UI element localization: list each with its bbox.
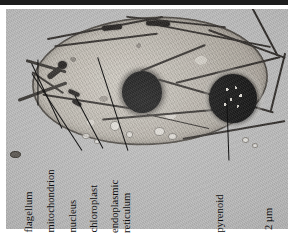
vesicle <box>252 143 258 148</box>
vesicle <box>242 137 249 143</box>
label-pyrenoid: pyrenoid <box>215 194 226 232</box>
label-chloroplast: chloroplast <box>89 185 100 233</box>
label-flagellum: flagellum <box>24 191 35 232</box>
vesicle <box>82 133 90 139</box>
label-endoplasmic-reticulum-line1: endoplasmic <box>109 180 120 233</box>
label-nucleus: nucleus <box>68 200 79 233</box>
pyrenoid-organelle <box>209 74 257 123</box>
vesicle <box>168 133 177 140</box>
label-mitochondrion: mitochondrion <box>46 169 57 232</box>
micrograph-figure: flagellum mitochondrion nucleus chloropl… <box>0 0 288 249</box>
vesicle <box>126 131 133 138</box>
scale-bar-label: 2 µm <box>263 208 274 230</box>
label-endoplasmic-reticulum-line2: reticulum <box>121 193 132 233</box>
cell-wall-outline <box>270 53 286 112</box>
nucleus-organelle <box>122 71 162 113</box>
vesicle <box>154 127 165 136</box>
pyrenoid-tubule-texture <box>209 74 257 123</box>
debris-particle <box>10 151 21 158</box>
